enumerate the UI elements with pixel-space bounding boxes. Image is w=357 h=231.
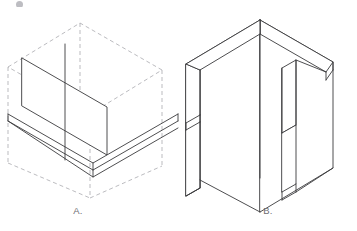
cut-off-header-sliver: [0, 0, 357, 7]
figure-a-caption: A.: [58, 205, 98, 216]
figure-page: A.: [0, 0, 357, 231]
figure-b-center-rib: [282, 60, 296, 200]
figure-b-left-wall: [186, 20, 260, 196]
figure-a-drawing: [0, 8, 185, 208]
header-bullet-icon: [16, 1, 23, 7]
figure-b-caption: B.: [248, 205, 288, 216]
figure-b-drawing: [178, 8, 353, 208]
